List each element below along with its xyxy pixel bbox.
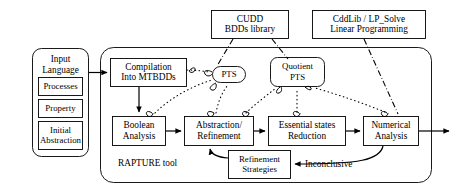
pts-group: PTS xyxy=(204,67,245,91)
refinement-strategies-group: Refinement Strategies xyxy=(229,151,291,179)
boolean-analysis-line1: Boolean xyxy=(124,120,155,130)
abstraction-refinement-group: Abstraction/ Refinement xyxy=(185,117,254,146)
refinement-strategies-line2: Strategies xyxy=(242,164,277,174)
cddlib-line1: CddLib / LP_Solve xyxy=(333,14,405,24)
numerical-analysis-group: Numerical Analysis xyxy=(364,117,419,146)
quotient-pts-line2: PTS xyxy=(290,72,305,82)
dotted-pts-to-abstraction xyxy=(216,85,228,113)
essential-states-line2: Reduction xyxy=(288,131,327,141)
quotient-pts-group: Quotient PTS xyxy=(271,58,325,94)
arrow-strategies-to-abstraction xyxy=(210,149,228,158)
input-language-group: Input Language Processes Property Initia… xyxy=(33,49,89,157)
rapture-architecture-diagram: RAPTURE tool Input Language Processes Pr… xyxy=(0,0,455,194)
essential-states-line1: Essential states xyxy=(279,120,336,130)
cudd-line2: BDDs library xyxy=(225,24,276,34)
input-language-title-line2: Language xyxy=(42,65,79,75)
abstraction-refinement-line1: Abstraction/ xyxy=(196,120,242,130)
inconclusive-label: Inconclusive xyxy=(305,159,353,169)
numerical-analysis-line2: Analysis xyxy=(375,131,408,141)
processes-label: Processes xyxy=(43,81,78,91)
compilation-line1: Compilation xyxy=(125,62,172,72)
initial-abstraction-line2: Abstraction xyxy=(40,135,82,145)
cddlib-line2: Linear Programming xyxy=(330,24,408,34)
refinement-strategies-line1: Refinement xyxy=(239,154,281,164)
input-language-title-line1: Input xyxy=(51,54,71,64)
cudd-line1: CUDD xyxy=(237,14,264,24)
property-label: Property xyxy=(45,103,76,113)
cddlib-group: CddLib / LP_Solve Linear Programming xyxy=(313,11,426,39)
numerical-analysis-line1: Numerical xyxy=(371,120,411,130)
compilation-group: Compilation Into MTBDDs xyxy=(111,59,187,87)
cddlib-to-numerical-link xyxy=(364,39,398,114)
cudd-to-pts-link xyxy=(217,39,233,66)
cudd-to-quotient-pts-link xyxy=(272,39,288,59)
rapture-tool-label: RAPTURE tool xyxy=(118,158,178,168)
abstraction-refinement-line2: Refinement xyxy=(197,131,241,141)
boolean-analysis-line2: Analysis xyxy=(123,131,156,141)
boolean-analysis-group: Boolean Analysis xyxy=(113,117,166,146)
dotted-quotient-to-numerical xyxy=(315,88,385,112)
pts-label: PTS xyxy=(221,69,236,79)
dotted-abstraction-to-quotient xyxy=(246,88,276,113)
cudd-group: CUDD BDDs library xyxy=(212,11,289,39)
quotient-pts-line1: Quotient xyxy=(282,61,313,71)
compilation-line2: Into MTBDDs xyxy=(121,72,176,82)
initial-abstraction-line1: Initial xyxy=(50,125,72,135)
essential-states-group: Essential states Reduction xyxy=(269,117,346,146)
